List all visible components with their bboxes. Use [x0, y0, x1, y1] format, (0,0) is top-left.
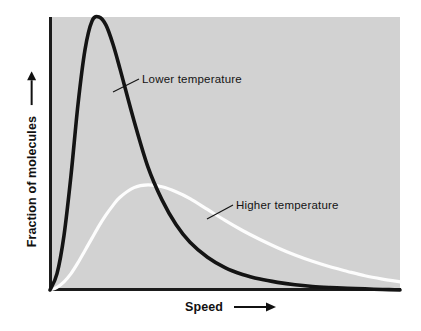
- series-lower-temperature: [50, 17, 400, 290]
- annotation-leader-lines: [113, 79, 233, 219]
- annotation-lower-temperature: Lower temperature: [142, 73, 242, 85]
- x-axis-label: Speed: [185, 300, 276, 315]
- curves-layer: [0, 0, 421, 331]
- x-axis-arrow-icon: [234, 301, 276, 315]
- annotation-higher-temperature: Higher temperature: [236, 199, 339, 211]
- maxwell-boltzmann-distribution-figure: Lower temperature Higher temperature Fra…: [0, 0, 421, 331]
- annotation-higher-temperature-text: Higher temperature: [236, 199, 339, 211]
- series-higher-temperature: [50, 185, 400, 290]
- y-axis-label: Fraction of molecules: [25, 54, 40, 264]
- lower-temperature-curve: [50, 17, 400, 290]
- higher-temperature-curve: [50, 185, 400, 290]
- y-axis-arrow-icon: [25, 71, 39, 105]
- y-axis-label-text: Fraction of molecules: [25, 116, 39, 247]
- annotation-lower-temperature-text: Lower temperature: [142, 73, 242, 85]
- x-axis-label-text: Speed: [185, 300, 223, 314]
